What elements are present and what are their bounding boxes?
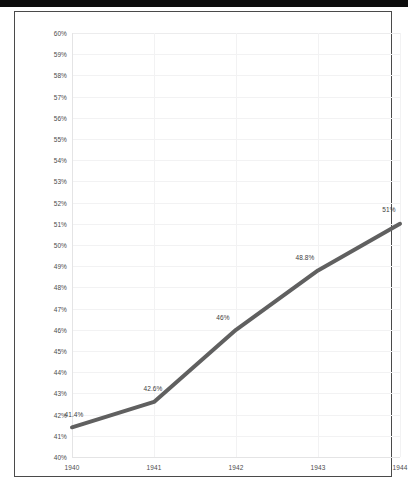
- line-series-layer: [72, 33, 400, 457]
- y-axis-tick-label: 51%: [54, 220, 67, 227]
- x-axis-tick-labels: 19401941194219431944: [72, 464, 400, 478]
- y-axis-tick-label: 50%: [54, 242, 67, 249]
- x-axis-tick-label: 1942: [229, 464, 244, 471]
- data-point-label: 42.6%: [144, 384, 163, 391]
- data-point-label: 48.8%: [296, 254, 315, 261]
- y-axis-tick-label: 45%: [54, 348, 67, 355]
- y-axis-tick-label: 55%: [54, 136, 67, 143]
- y-axis-tick-label: 43%: [54, 390, 67, 397]
- x-axis-tick-label: 1940: [65, 464, 80, 471]
- x-axis-tick-label: 1941: [147, 464, 162, 471]
- data-point-label: 51%: [382, 205, 395, 212]
- y-axis-tick-label: 54%: [54, 157, 67, 164]
- window-top-bar: [0, 0, 408, 7]
- y-axis-tick-label: 46%: [54, 326, 67, 333]
- window-top-bar-edge: [0, 7, 408, 9]
- line-series-path: [72, 224, 400, 428]
- y-axis-tick-label: 48%: [54, 284, 67, 291]
- chart-card-frame: 60%59%58%57%56%55%54%53%52%51%50%49%48%4…: [14, 11, 392, 477]
- y-axis-tick-label: 57%: [54, 93, 67, 100]
- y-axis-tick-label: 53%: [54, 178, 67, 185]
- y-axis-tick-label: 49%: [54, 263, 67, 270]
- y-axis-tick-label: 40%: [54, 454, 67, 461]
- y-axis-tick-labels: 60%59%58%57%56%55%54%53%52%51%50%49%48%4…: [15, 12, 67, 478]
- y-axis-tick-label: 52%: [54, 199, 67, 206]
- gridline-vertical: [400, 33, 401, 457]
- data-point-label: 46%: [216, 313, 229, 320]
- y-axis-tick-label: 58%: [54, 72, 67, 79]
- x-axis-tick-label: 1943: [311, 464, 326, 471]
- y-axis-tick-label: 59%: [54, 51, 67, 58]
- data-point-label: 41.4%: [65, 411, 84, 418]
- y-axis-tick-label: 47%: [54, 305, 67, 312]
- x-axis-tick-label: 1944: [393, 464, 408, 471]
- y-axis-tick-label: 41%: [54, 432, 67, 439]
- y-axis-tick-label: 44%: [54, 369, 67, 376]
- y-axis-tick-label: 56%: [54, 114, 67, 121]
- y-axis-tick-label: 60%: [54, 30, 67, 37]
- chart-screenshot: 60%59%58%57%56%55%54%53%52%51%50%49%48%4…: [0, 0, 408, 492]
- gridline-horizontal: [72, 457, 400, 458]
